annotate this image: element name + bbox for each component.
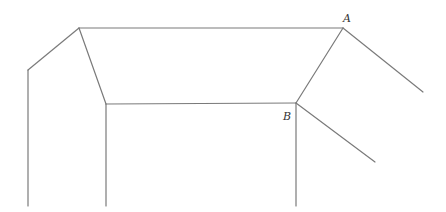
diagram-lines [0,0,446,212]
diagram-canvas: A B [0,0,446,212]
vertex-label-a: A [343,13,351,24]
edge-right-slope [296,28,343,103]
edge-bottom [106,103,296,104]
edge-b-diagonal [296,103,375,162]
vertex-label-b: B [283,111,291,122]
edge-inner-left-slope [79,28,106,104]
edge-left-slope [28,28,79,70]
edge-a-diagonal [343,28,423,92]
